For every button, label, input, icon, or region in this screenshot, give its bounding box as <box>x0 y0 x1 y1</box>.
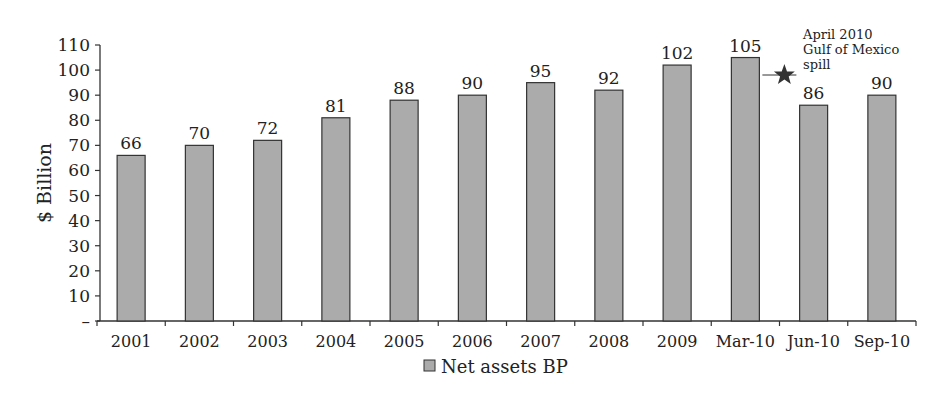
x-tick-label: Sep-10 <box>854 332 910 351</box>
y-axis: –102030405060708090100110 <box>58 35 100 331</box>
y-tick-label: 40 <box>68 211 90 231</box>
x-tick-label: 2004 <box>316 332 357 351</box>
x-axis: 200120022003200420052006200720082009Mar-… <box>97 321 916 351</box>
bar-chart: –102030405060708090100110 20012002200320… <box>0 0 948 406</box>
annotation-text: April 2010 <box>802 27 872 42</box>
y-tick-label: – <box>82 311 91 331</box>
bar <box>595 90 623 321</box>
bar <box>322 118 350 321</box>
y-tick-label: 60 <box>68 160 90 180</box>
y-tick-label: 70 <box>68 135 90 155</box>
x-tick-label: Mar-10 <box>716 332 775 351</box>
y-tick-label: 10 <box>68 286 90 306</box>
y-tick-label: 110 <box>58 35 90 55</box>
annotation-text: Gulf of Mexico <box>803 42 899 57</box>
y-tick-label: 100 <box>58 60 90 80</box>
bar-value-label: 70 <box>189 123 211 143</box>
bar-value-label: 105 <box>729 36 761 56</box>
x-tick-label: 2006 <box>452 332 493 351</box>
bar <box>527 83 555 321</box>
legend: Net assets BP <box>424 356 568 377</box>
bar-value-label: 66 <box>120 133 142 153</box>
bar-value-label: 102 <box>661 43 693 63</box>
bar-value-label: 86 <box>803 83 825 103</box>
x-tick-label: 2007 <box>520 332 561 351</box>
bar-value-label: 72 <box>257 118 279 138</box>
y-tick-label: 80 <box>68 110 90 130</box>
bar-value-label: 81 <box>325 96 347 116</box>
legend-swatch <box>424 360 435 371</box>
bar-value-label: 90 <box>871 73 893 93</box>
x-tick-label: 2003 <box>247 332 288 351</box>
bar <box>731 58 759 321</box>
bar <box>254 140 282 321</box>
y-axis-label: $ Billion <box>33 143 55 223</box>
y-tick-label: 90 <box>68 85 90 105</box>
x-tick-label: Jun-10 <box>785 332 840 351</box>
x-tick-label: 2008 <box>589 332 630 351</box>
y-tick-label: 50 <box>68 186 90 206</box>
legend-label: Net assets BP <box>441 356 568 377</box>
bar-value-label: 95 <box>530 61 552 81</box>
y-tick-label: 30 <box>68 236 90 256</box>
bar-value-label: 92 <box>598 68 620 88</box>
bars: 66707281889095921021058690 <box>117 36 896 321</box>
annotation-text: spill <box>803 57 830 72</box>
bar <box>117 155 145 321</box>
x-tick-label: 2002 <box>179 332 220 351</box>
bar <box>458 95 486 321</box>
bar <box>800 105 828 321</box>
bar <box>390 100 418 321</box>
x-tick-label: 2001 <box>111 332 152 351</box>
x-tick-label: 2005 <box>384 332 425 351</box>
bar-value-label: 88 <box>393 78 415 98</box>
bar-value-label: 90 <box>462 73 484 93</box>
y-tick-label: 20 <box>68 261 90 281</box>
x-tick-label: 2009 <box>657 332 698 351</box>
bar <box>185 145 213 321</box>
bar <box>868 95 896 321</box>
bar <box>663 65 691 321</box>
star-marker-icon <box>774 64 795 84</box>
